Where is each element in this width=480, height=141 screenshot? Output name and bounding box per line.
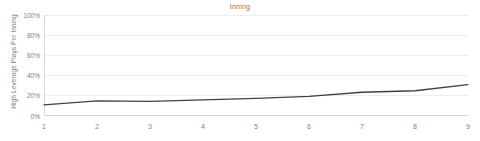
- x-axis-tick-label: 1: [32, 122, 56, 131]
- y-axis-title: High Leverage Plays Per Inning: [10, 2, 17, 122]
- x-axis-tick-label: 4: [191, 122, 215, 131]
- x-axis-tick-label: 9: [456, 122, 480, 131]
- x-axis-tick-label: 5: [244, 122, 268, 131]
- chart-title: Inning: [0, 2, 480, 12]
- y-axis-tick-label: 60%: [8, 52, 40, 59]
- y-axis-tick-label: 100%: [8, 12, 40, 19]
- x-axis-tick-label: 8: [403, 122, 427, 131]
- series-line-high-leverage-plays: [44, 15, 468, 116]
- x-axis-tick-label: 6: [297, 122, 321, 131]
- y-axis-tick-label: 0%: [8, 113, 40, 120]
- line-chart: Inning High Leverage Plays Per Inning 0%…: [0, 0, 480, 141]
- x-axis-tick-label: 2: [85, 122, 109, 131]
- y-axis-tick-label: 20%: [8, 92, 40, 99]
- x-axis-tick-label: 3: [138, 122, 162, 131]
- x-axis-tick-label: 7: [350, 122, 374, 131]
- y-axis-tick-label: 40%: [8, 72, 40, 79]
- y-axis-tick-label: 80%: [8, 32, 40, 39]
